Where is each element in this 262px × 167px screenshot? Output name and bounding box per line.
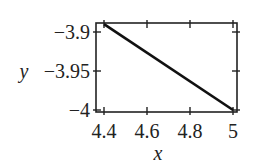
x-tick-label: 5 xyxy=(228,120,238,142)
chart: 4.44.64.85 −3.9−3.95−4 x y xyxy=(0,0,262,167)
y-tick-labels: −3.9−3.95−4 xyxy=(44,21,90,121)
y-tick-label: −3.95 xyxy=(44,60,90,82)
x-tick-labels: 4.44.64.85 xyxy=(92,120,239,142)
y-tick-label: −4 xyxy=(69,99,90,121)
data-line xyxy=(104,24,233,110)
y-tick-label: −3.9 xyxy=(54,21,90,43)
y-axis-label: y xyxy=(18,60,29,83)
x-axis-label: x xyxy=(153,142,163,164)
x-tick-label: 4.6 xyxy=(135,120,160,142)
x-tick-label: 4.4 xyxy=(92,120,117,142)
x-tick-label: 4.8 xyxy=(178,120,203,142)
